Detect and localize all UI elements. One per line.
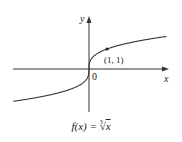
origin-label: 0 <box>92 71 97 82</box>
x-axis-arrow-icon <box>162 67 169 72</box>
caption-prefix: f(x) = <box>71 120 99 132</box>
root-index: 3 <box>100 119 103 125</box>
x-axis-label: x <box>163 73 169 84</box>
radicand: x <box>106 120 111 132</box>
y-axis-label: y <box>79 13 85 24</box>
y-axis-arrow-icon <box>87 16 92 23</box>
point-label: (1, 1) <box>104 55 124 65</box>
function-caption: f(x) = 3√x <box>0 120 182 132</box>
point-marker <box>105 47 108 50</box>
